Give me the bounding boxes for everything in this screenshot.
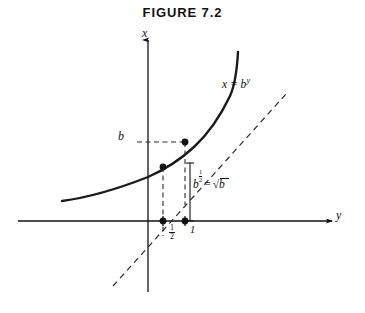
identity-equals-sign: =	[202, 178, 213, 190]
identity-label: b 1 2 =√b	[193, 170, 225, 190]
curve-equation-exponent: y	[246, 76, 250, 85]
radical-sign: √b	[213, 178, 225, 190]
point-on-axis-half	[160, 218, 167, 225]
fraction-one-half: 1 2	[169, 224, 175, 241]
point-on-curve-half	[160, 164, 167, 171]
axis-label-x: x	[142, 26, 147, 41]
figure-plot	[0, 0, 365, 313]
curve-equation-label: x = by	[222, 76, 250, 90]
identity-exponent-numerator: 1	[199, 169, 203, 176]
tick-label-one: 1	[190, 224, 195, 235]
point-on-axis-one	[182, 218, 189, 225]
identity-radicand: b	[219, 178, 225, 190]
figure-container: FIGURE 7.2	[0, 0, 365, 313]
radical-overbar	[220, 178, 229, 179]
point-on-curve-one	[182, 139, 189, 146]
label-b-level: b	[118, 129, 124, 144]
identity-exponent-fraction: 1 2	[199, 169, 203, 184]
reference-line-dashed	[113, 94, 286, 286]
curve-equation-base: x = b	[222, 78, 246, 90]
identity-exponent-denominator: 2	[199, 176, 203, 184]
fraction-numerator: 1	[169, 224, 175, 232]
tick-label-half: 1 2	[169, 224, 175, 241]
fraction-denominator: 2	[169, 232, 175, 241]
axis-label-y: y	[336, 208, 341, 223]
